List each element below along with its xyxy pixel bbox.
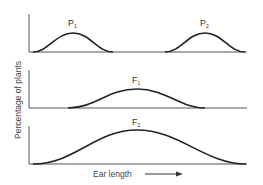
- curve-f1: [68, 89, 205, 108]
- panel-parents: P1 P2: [29, 14, 247, 52]
- label-f1: F1: [132, 75, 141, 86]
- curve-p1: [33, 33, 113, 52]
- label-p1: P1: [68, 18, 77, 29]
- curve-f2: [33, 130, 246, 164]
- panel-f1: F1: [29, 70, 247, 108]
- x-axis-label: Ear length: [93, 169, 132, 179]
- label-p2: P2: [200, 18, 209, 29]
- y-axis-label: Percentage of plants: [13, 61, 23, 139]
- arrow-right-icon: [145, 172, 183, 177]
- label-f2: F2: [132, 117, 141, 128]
- panel-parents-axes: [29, 14, 247, 52]
- panel-f2: F2: [29, 117, 247, 164]
- inheritance-diagram: Percentage of plants P1 P2 F1 F2 Ear len…: [0, 0, 263, 185]
- curve-p2: [165, 33, 245, 52]
